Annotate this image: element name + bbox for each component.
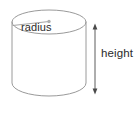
height-label: height	[101, 48, 133, 60]
radius-label: radius	[21, 22, 52, 33]
height-arrowhead-top	[93, 24, 98, 30]
height-arrowhead-bottom	[93, 89, 98, 95]
cylinder-body-outline	[12, 22, 86, 96]
cylinder-diagram: radius height	[0, 0, 135, 117]
height-arrow-icon	[93, 24, 98, 95]
